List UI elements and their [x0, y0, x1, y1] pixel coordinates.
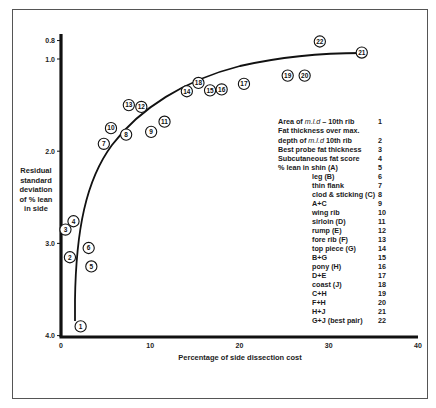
data-point-22: 22 [314, 36, 325, 47]
data-point-17: 17 [238, 78, 249, 89]
data-point-8: 8 [121, 129, 132, 140]
x-axis-title: Percentage of side dissection cost [178, 353, 302, 362]
data-point-10: 10 [105, 123, 116, 134]
legend-number: 7 [378, 181, 382, 190]
data-point-2: 2 [64, 252, 75, 263]
legend-number: 13 [378, 235, 386, 244]
legend-item: A+C9 [312, 199, 382, 208]
legend-number: 11 [378, 217, 386, 226]
legend-item: depth of m.l.d 10th rib2 [278, 136, 382, 145]
data-point-5: 5 [86, 261, 97, 272]
legend-label: % lean in shin (A) [278, 163, 339, 172]
point-label: 14 [183, 88, 191, 95]
data-point-4: 4 [68, 216, 79, 227]
legend-label: top piece (G) [312, 244, 357, 253]
legend-label: H+J [312, 307, 325, 316]
legend-number: 15 [378, 253, 386, 262]
data-point-6: 6 [83, 242, 94, 253]
point-label: 6 [87, 244, 91, 251]
legend-number: 17 [378, 271, 386, 280]
legend-number: 22 [378, 316, 386, 325]
legend-number: 21 [378, 307, 386, 316]
point-label: 1 [79, 323, 83, 330]
point-label: 22 [316, 38, 324, 45]
legend-number: 3 [378, 145, 382, 154]
legend-label: Best probe fat thickness [278, 145, 361, 154]
point-label: 9 [149, 128, 153, 135]
point-label: 16 [218, 86, 226, 93]
legend-number: 1 [378, 117, 382, 126]
data-point-11: 11 [159, 116, 170, 127]
point-label: 11 [161, 118, 168, 125]
legend-label: pony (H) [312, 262, 342, 271]
data-point-14: 14 [181, 86, 192, 97]
point-label: 12 [138, 103, 146, 110]
y-tick-label: 2.0 [45, 148, 55, 155]
legend-item: coast (J)18 [312, 280, 386, 289]
legend-item: G+J (best pair)22 [312, 316, 386, 325]
data-point-1: 1 [75, 321, 86, 332]
legend-label: D+E [312, 271, 326, 280]
data-point-9: 9 [146, 126, 157, 137]
legend-item: leg (B)6 [312, 172, 382, 181]
legend-item: fore rib (F)13 [312, 235, 386, 244]
point-label: 4 [72, 218, 76, 225]
legend-label: sirloin (D) [312, 217, 346, 226]
y-axis-title-line: Residual [20, 166, 51, 175]
legend-item: D+E17 [312, 271, 386, 280]
y-axis-title-line: standard [20, 176, 52, 185]
x-tick-label: 0 [59, 342, 63, 349]
legend-item: Subcutaneous fat score4 [278, 154, 382, 163]
data-point-18: 18 [193, 77, 204, 88]
legend-label: B+G [312, 253, 327, 262]
legend-label: clod & sticking (C) [312, 190, 376, 199]
legend-label: rump (E) [312, 226, 342, 235]
x-tick-label: 20 [236, 342, 244, 349]
data-point-20: 20 [299, 70, 310, 81]
legend-label: fore rib (F) [312, 235, 349, 244]
y-axis-title-line: of % lean [20, 195, 53, 204]
y-tick-label: 3.0 [45, 240, 55, 247]
x-tick-label: 10 [146, 342, 154, 349]
y-axis-title-line: deviation [20, 185, 53, 194]
legend-item: pony (H)16 [312, 262, 386, 271]
point-label: 19 [284, 72, 292, 79]
legend-label: Area of m.l.d – 10th rib [278, 117, 355, 126]
data-point-15: 15 [204, 85, 215, 96]
legend-label: C+H [312, 289, 327, 298]
point-label: 8 [124, 131, 128, 138]
legend-number: 4 [378, 154, 382, 163]
legend-item: rump (E)12 [312, 226, 386, 235]
data-point-13: 13 [123, 100, 134, 111]
legend-number: 12 [378, 226, 386, 235]
point-label: 2 [68, 254, 72, 261]
legend-item: Area of m.l.d – 10th rib1 [278, 117, 382, 126]
legend-item: B+G15 [312, 253, 386, 262]
data-point-7: 7 [98, 138, 109, 149]
legend-item: % lean in shin (A)5 [278, 163, 382, 172]
legend-item: Best probe fat thickness3 [278, 145, 382, 154]
legend-item: C+H19 [312, 289, 386, 298]
y-axis-title-line: in side [24, 204, 48, 213]
x-tick-label: 30 [325, 342, 333, 349]
legend-item: H+J21 [312, 307, 386, 316]
legend-item: thin flank7 [312, 181, 382, 190]
legend-label: thin flank [312, 181, 344, 190]
legend-number: 2 [378, 136, 382, 145]
legend: Area of m.l.d – 10th rib1Fat thickness o… [278, 117, 386, 325]
point-label: 18 [195, 79, 203, 86]
data-point-16: 16 [216, 84, 227, 95]
point-label: 13 [125, 101, 133, 108]
legend-number: 19 [378, 289, 386, 298]
legend-label: leg (B) [312, 172, 335, 181]
chart-area: 0.81.02.03.04.0010203040 123456789101112… [0, 0, 436, 408]
y-tick-label: 0.8 [45, 37, 55, 44]
point-label: 10 [107, 124, 115, 131]
point-label: 17 [240, 80, 248, 87]
data-point-12: 12 [136, 101, 147, 112]
legend-item: wing rib10 [311, 208, 386, 217]
point-label: 15 [206, 87, 214, 94]
legend-label: Subcutaneous fat score [278, 154, 359, 163]
legend-number: 18 [378, 280, 386, 289]
legend-item: clod & sticking (C)8 [312, 190, 382, 199]
